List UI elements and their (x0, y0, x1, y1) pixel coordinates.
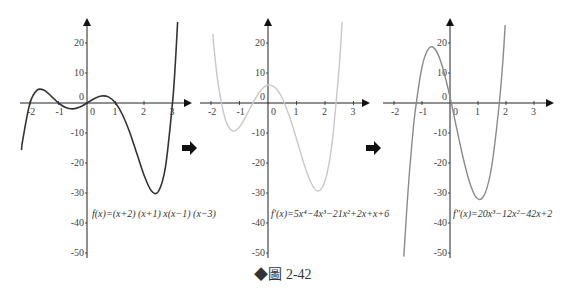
x-tick-label: -1 (237, 106, 245, 117)
x-tick-label: 2 (141, 106, 146, 117)
x-tick-label: -1 (56, 106, 64, 117)
figure-canvas: -2-1012320100-10-20-30-40-50 -2-10123201… (0, 0, 566, 292)
chart-f: -2-1012320100-10-20-30-40-50 (20, 20, 190, 258)
x-tick-label: 2 (322, 106, 327, 117)
y-tick-label: 0 (260, 91, 265, 102)
y-tick-label: 10 (74, 67, 84, 78)
figure-caption: ◆圖 2-42 (0, 263, 566, 283)
y-tick-label: -50 (252, 247, 265, 258)
x-tick-label: -1 (419, 106, 427, 117)
y-tick-label: -10 (71, 127, 84, 138)
formula-f: f(x)=(x+2) (x+1) x(x−1) (x−3) (92, 208, 216, 219)
x-tick-label: 1 (294, 106, 299, 117)
y-tick-label: -30 (252, 187, 265, 198)
x-tick-label: 1 (475, 106, 480, 117)
y-tick-label: -20 (71, 157, 84, 168)
x-tick-label: -2 (391, 106, 399, 117)
x-tick-label: 0 (271, 106, 276, 117)
x-tick-label: 3 (351, 106, 356, 117)
curve-f(x) (22, 22, 178, 194)
y-tick-label: -40 (71, 217, 84, 228)
y-tick-label: -10 (434, 127, 447, 138)
formula-f-double-prime: f″(x)=20x³−12x²−42x+2 (453, 208, 552, 219)
diamond-icon: ◆ (254, 267, 268, 282)
chart-f-prime: -2-1012320100-10-20-30-40-50 (200, 20, 368, 258)
y-tick-label: -40 (252, 217, 265, 228)
x-tick-label: 0 (90, 106, 95, 117)
y-tick-label: -50 (434, 247, 447, 258)
right-arrow-icon (182, 141, 197, 155)
curve-f''(x) (404, 25, 505, 257)
y-tick-label: 20 (437, 37, 447, 48)
y-tick-label: 0 (79, 91, 84, 102)
y-tick-label: -10 (252, 127, 265, 138)
y-tick-label: -20 (252, 157, 265, 168)
right-arrow-icon (366, 141, 381, 155)
x-tick-label: -2 (208, 106, 216, 117)
caption-label: 圖 2-42 (268, 267, 311, 282)
x-tick-label: 1 (113, 106, 118, 117)
x-tick-label: 3 (531, 106, 536, 117)
y-tick-label: 0 (442, 91, 447, 102)
y-tick-label: -20 (434, 157, 447, 168)
y-tick-label: -30 (434, 187, 447, 198)
chart-f-double-prime: -2-1012320100-10-20-30-40-50 (383, 20, 552, 258)
y-tick-label: -30 (71, 187, 84, 198)
formula-f-prime: f′(x)=5x⁴−4x³−21x²+2x+x+6 (271, 208, 389, 219)
y-tick-label: -50 (71, 247, 84, 258)
y-tick-label: 10 (255, 67, 265, 78)
y-tick-label: 20 (255, 37, 265, 48)
y-tick-label: 20 (74, 37, 84, 48)
y-tick-label: -40 (434, 217, 447, 228)
x-tick-label: 2 (503, 106, 508, 117)
